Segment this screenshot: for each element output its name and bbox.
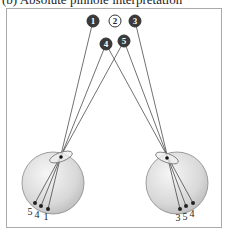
left-eye-retina-label: 5	[28, 206, 33, 217]
right-eye-retina-label: 3	[176, 212, 181, 223]
right-eye-retina-label: 5	[183, 211, 188, 222]
point-label: 2	[113, 16, 118, 26]
right-eye-retina-label: 4	[190, 208, 195, 219]
left-eye-pinhole	[59, 155, 63, 159]
point-label: 5	[122, 36, 127, 46]
left-eye-retina-dot-5	[33, 201, 37, 205]
point-label: 1	[91, 16, 96, 26]
right-eye-retina-dot-3	[178, 207, 182, 211]
point-label: 3	[133, 16, 138, 26]
left-eye-retina-dot-4	[39, 204, 43, 208]
point-label: 4	[104, 39, 109, 49]
left-eye-retina-label: 4	[35, 209, 40, 220]
right-eye-retina-dot-4	[191, 201, 195, 205]
right-eye-pinhole	[165, 156, 169, 160]
binocular-pinhole-diagram: 541354 12345	[0, 0, 228, 234]
right-eye-retina-dot-5	[184, 204, 188, 208]
left-eye-retina-label: 1	[44, 211, 49, 222]
